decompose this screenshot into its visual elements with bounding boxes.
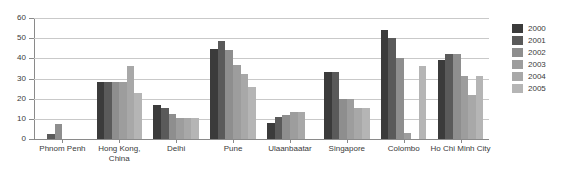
bar: [210, 49, 218, 139]
y-axis-tick: [29, 18, 34, 19]
bar: [191, 118, 199, 139]
bar: [388, 38, 396, 139]
legend-item[interactable]: 2005: [512, 84, 546, 93]
bar: [332, 72, 340, 139]
bar: [275, 117, 283, 139]
x-axis-line: [34, 139, 489, 140]
bar: [324, 72, 332, 139]
bar-group: [324, 18, 370, 139]
bar: [55, 124, 63, 139]
y-axis-tick: [29, 99, 34, 100]
bar: [248, 87, 256, 139]
y-axis-tick-label: 50: [2, 34, 26, 42]
x-axis-tick: [290, 139, 291, 143]
bar: [161, 108, 169, 139]
bar: [381, 30, 389, 139]
bar: [339, 99, 347, 139]
bar: [184, 118, 192, 139]
chart-container: 0102030405060 Phnom PenhHong Kong, China…: [0, 0, 572, 174]
bar: [153, 105, 161, 139]
legend-swatch-icon: [512, 24, 523, 33]
x-axis-tick: [347, 139, 348, 143]
bar: [267, 123, 275, 139]
legend-item-label: 2001: [528, 36, 546, 45]
plot-area: 0102030405060: [34, 18, 489, 140]
bar: [127, 66, 135, 139]
bar-group: [210, 18, 256, 139]
bar: [47, 134, 55, 139]
x-axis-tick-label: Ho Chi Minh City: [416, 144, 506, 154]
bar: [225, 50, 233, 139]
bar-group: [381, 18, 427, 139]
x-axis-tick: [62, 139, 63, 143]
x-axis-tick: [119, 139, 120, 143]
bar: [218, 41, 226, 139]
bar: [233, 65, 241, 139]
bar: [438, 60, 446, 139]
bar-group: [97, 18, 143, 139]
bar: [468, 95, 476, 139]
bar: [445, 54, 453, 139]
y-axis-tick: [29, 119, 34, 120]
x-axis-tick: [176, 139, 177, 143]
bar: [282, 115, 290, 139]
bar: [476, 76, 484, 139]
y-axis-tick-label: 30: [2, 75, 26, 83]
bar: [119, 82, 127, 139]
legend-item[interactable]: 2001: [512, 36, 546, 45]
y-axis-tick-label: 60: [2, 14, 26, 22]
bar: [396, 58, 404, 139]
bar-group: [267, 18, 313, 139]
bar: [104, 82, 112, 139]
bar: [112, 82, 120, 139]
legend-item-label: 2000: [528, 24, 546, 33]
legend-swatch-icon: [512, 84, 523, 93]
bar: [169, 114, 177, 139]
y-axis-tick: [29, 79, 34, 80]
y-axis-tick-label: 10: [2, 115, 26, 123]
bar: [453, 54, 461, 139]
bar: [97, 82, 105, 139]
chart-legend: 200020012002200320042005: [512, 24, 546, 93]
y-axis-tick-label: 40: [2, 54, 26, 62]
legend-item[interactable]: 2002: [512, 48, 546, 57]
bar: [298, 112, 306, 139]
bar-group: [438, 18, 484, 139]
legend-swatch-icon: [512, 36, 523, 45]
bar: [461, 76, 469, 139]
bar: [362, 108, 370, 139]
y-axis-tick-label: 20: [2, 95, 26, 103]
bar-group: [40, 18, 86, 139]
y-axis-tick: [29, 58, 34, 59]
bar: [241, 74, 249, 139]
bar: [134, 93, 142, 139]
bar: [176, 118, 184, 139]
bar: [290, 112, 298, 139]
legend-item[interactable]: 2003: [512, 60, 546, 69]
legend-item[interactable]: 2000: [512, 24, 546, 33]
y-axis-tick: [29, 139, 34, 140]
bar: [419, 66, 427, 139]
x-axis-tick: [233, 139, 234, 143]
legend-swatch-icon: [512, 72, 523, 81]
legend-item-label: 2002: [528, 48, 546, 57]
legend-item-label: 2004: [528, 72, 546, 81]
legend-swatch-icon: [512, 60, 523, 69]
legend-item-label: 2003: [528, 60, 546, 69]
x-axis-tick: [461, 139, 462, 143]
legend-item[interactable]: 2004: [512, 72, 546, 81]
legend-swatch-icon: [512, 48, 523, 57]
legend-item-label: 2005: [528, 84, 546, 93]
bar: [347, 99, 355, 139]
x-axis-tick: [404, 139, 405, 143]
bar-group: [153, 18, 199, 139]
bar: [354, 108, 362, 139]
y-axis-tick-label: 0: [2, 135, 26, 143]
y-axis-tick: [29, 38, 34, 39]
